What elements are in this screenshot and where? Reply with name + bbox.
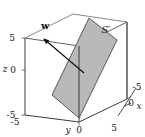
figure-3d-plane-in-box: 5 0 -5 z -5 y 0 5 -5 0 x w S′ [0,0,145,137]
z-axis-label: z [2,64,8,74]
vector-w-label: w [40,20,50,31]
x-tick-label-minus5: -5 [133,82,142,92]
x-axis-label: x [136,101,141,111]
y-tick-label-0: 0 [76,125,82,135]
z-tick-label-0: 0 [10,65,16,75]
y-axis-label: y [64,125,71,135]
x-tick-label-0: 0 [128,98,134,108]
figure-canvas: 5 0 -5 z -5 y 0 5 -5 0 x w S′ [0,0,145,137]
box-edge-top-back-right [73,14,127,22]
surface-s-prime-label: S′ [101,24,111,35]
z-tick-label-5: 5 [9,33,15,43]
y-tick-label-5: 5 [111,123,117,133]
box-edge-top-front-left [25,38,79,46]
box-edge-bottom-front-left [25,115,79,122]
y-tick-label-minus5: -5 [11,117,20,127]
